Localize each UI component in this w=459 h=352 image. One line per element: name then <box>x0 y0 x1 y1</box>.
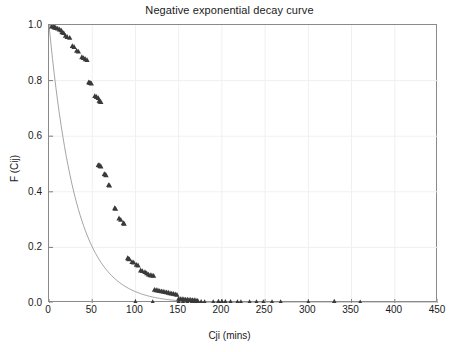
data-point <box>332 299 337 303</box>
y-tick-label: 0.4 <box>2 185 42 196</box>
data-point <box>133 299 138 303</box>
y-tick-label: 0.8 <box>2 74 42 85</box>
data-point <box>269 299 274 303</box>
x-axis-label: Cji (mins) <box>0 330 459 341</box>
data-point <box>278 299 283 303</box>
x-tick-label: 0 <box>45 304 51 315</box>
x-tick-label: 300 <box>299 304 316 315</box>
y-tick-label: 0.6 <box>2 130 42 141</box>
chart-title: Negative exponential decay curve <box>0 4 459 16</box>
data-point <box>358 300 363 303</box>
y-tick-label: 0.2 <box>2 241 42 252</box>
data-point <box>223 299 228 303</box>
x-tick-label: 250 <box>256 304 273 315</box>
plot-area <box>48 24 437 302</box>
data-point-markers <box>49 25 363 303</box>
x-tick-label: 450 <box>429 304 446 315</box>
axis-tick-marks <box>49 25 438 303</box>
x-tick-label: 400 <box>385 304 402 315</box>
plot-svg <box>49 25 438 303</box>
figure: Negative exponential decay curve F (Cij)… <box>0 0 459 352</box>
x-tick-label: 100 <box>126 304 143 315</box>
y-tick-label: 1.0 <box>2 19 42 30</box>
x-tick-label: 200 <box>213 304 230 315</box>
data-point <box>228 299 233 303</box>
y-tick-label: 0.0 <box>2 297 42 308</box>
x-tick-label: 50 <box>86 304 97 315</box>
data-point <box>306 300 311 303</box>
fitted-curve <box>49 25 438 303</box>
x-tick-label: 150 <box>169 304 186 315</box>
gridlines <box>49 25 438 303</box>
x-tick-label: 350 <box>342 304 359 315</box>
data-point <box>150 299 155 303</box>
